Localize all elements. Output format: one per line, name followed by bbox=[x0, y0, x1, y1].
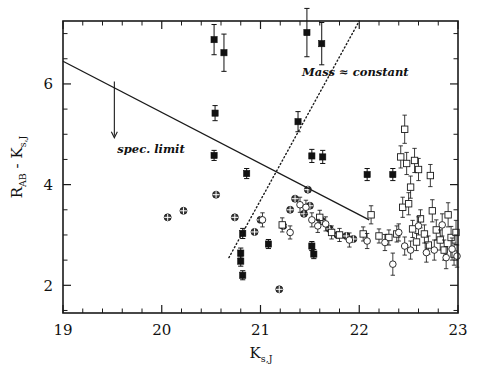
data-point bbox=[304, 8, 310, 56]
marker-open-circle bbox=[431, 247, 438, 254]
marker-open-circle bbox=[423, 249, 430, 256]
marker-filled-square bbox=[265, 241, 271, 247]
data-point bbox=[413, 233, 419, 250]
data-point bbox=[368, 206, 374, 224]
marker-open-square bbox=[405, 201, 411, 207]
data-point bbox=[429, 200, 435, 222]
marker-open-circle bbox=[364, 238, 371, 245]
data-point bbox=[319, 23, 325, 65]
data-point bbox=[240, 271, 246, 280]
marker-open-square bbox=[360, 231, 366, 237]
data-point bbox=[311, 250, 317, 259]
marker-open-square bbox=[415, 166, 421, 172]
data-point bbox=[376, 229, 382, 243]
data-point bbox=[180, 207, 187, 214]
marker-open-square bbox=[376, 233, 382, 239]
marker-open-circle bbox=[259, 217, 266, 224]
marker-open-circle bbox=[443, 254, 450, 261]
data-point bbox=[309, 213, 316, 227]
data-point bbox=[211, 150, 217, 160]
data-point bbox=[401, 115, 407, 143]
marker-open-circle bbox=[346, 237, 353, 244]
marker-open-square bbox=[445, 212, 451, 218]
marker-filled-square bbox=[211, 37, 217, 43]
marker-filled-square bbox=[309, 153, 315, 159]
data-point bbox=[292, 195, 299, 202]
data-point bbox=[409, 220, 415, 237]
marker-open-square bbox=[411, 157, 417, 163]
marker-open-square bbox=[409, 226, 415, 232]
marker-filled-square bbox=[244, 170, 250, 176]
y-axis-title-sj-sub: s,J bbox=[17, 135, 28, 147]
marker-open-circle bbox=[449, 246, 456, 253]
svg-text:Ks,J: Ks,J bbox=[250, 344, 273, 364]
data-point bbox=[213, 191, 220, 198]
marker-open-square bbox=[279, 222, 285, 228]
svg-text:RAB - Ks,J: RAB - Ks,J bbox=[8, 135, 28, 198]
marker-filled-square bbox=[238, 258, 244, 264]
marker-open-circle bbox=[287, 229, 294, 236]
marker-filled-square bbox=[295, 119, 301, 125]
marker-open-square bbox=[401, 126, 407, 132]
data-point bbox=[398, 146, 404, 168]
y-tick-label: 2 bbox=[43, 277, 53, 295]
marker-filled-square bbox=[212, 110, 218, 116]
marker-open-square bbox=[328, 229, 334, 235]
marker-open-square bbox=[407, 184, 413, 190]
y-tick-label: 6 bbox=[43, 75, 53, 93]
marker-filled-square bbox=[319, 41, 325, 47]
marker-filled-square bbox=[311, 251, 317, 257]
data-point bbox=[287, 226, 294, 239]
marker-filled-square bbox=[304, 29, 310, 35]
marker-open-square bbox=[398, 154, 404, 160]
data-point bbox=[336, 228, 342, 241]
data-points-layer bbox=[164, 8, 460, 292]
data-point bbox=[309, 149, 315, 162]
marker-open-circle bbox=[309, 217, 316, 224]
data-point bbox=[164, 214, 171, 221]
marker-open-circle bbox=[439, 222, 446, 229]
x-tick-label: 19 bbox=[53, 321, 72, 339]
x-axis-title-k: K bbox=[250, 344, 262, 362]
x-tick-label: 21 bbox=[251, 321, 270, 339]
marker-open-square bbox=[427, 172, 433, 178]
data-point bbox=[390, 169, 396, 181]
data-point bbox=[251, 228, 258, 235]
data-point bbox=[400, 197, 406, 217]
x-tick-label: 22 bbox=[350, 321, 369, 339]
marker-open-circle bbox=[401, 243, 408, 250]
marker-open-circle bbox=[314, 223, 321, 230]
marker-filled-square bbox=[320, 154, 326, 160]
spec-limit-arrow bbox=[111, 81, 117, 137]
marker-filled-square bbox=[364, 171, 370, 177]
marker-filled-square bbox=[211, 152, 217, 158]
marker-filled-square bbox=[221, 50, 227, 56]
x-axis-title-sub: s,J bbox=[261, 353, 273, 364]
marker-open-circle bbox=[415, 223, 422, 230]
marker-open-square bbox=[403, 160, 409, 166]
annotation-mass-constant: Mass ≈ constant bbox=[301, 65, 409, 79]
series-crossed-circle bbox=[164, 186, 357, 293]
marker-open-square bbox=[413, 239, 419, 245]
data-point bbox=[364, 169, 370, 181]
data-point bbox=[295, 112, 301, 132]
x-axis-title: Ks,J bbox=[250, 344, 273, 364]
marker-open-circle bbox=[390, 261, 397, 268]
marker-filled-square bbox=[238, 250, 244, 256]
constant-mass-line bbox=[229, 21, 359, 258]
figure-container: spec. limitMass ≈ constant 1920212223246… bbox=[0, 0, 486, 374]
marker-open-circle bbox=[303, 204, 310, 211]
marker-open-circle bbox=[407, 247, 414, 254]
data-point bbox=[320, 150, 326, 163]
marker-open-circle bbox=[454, 253, 461, 260]
marker-open-circle bbox=[395, 229, 402, 236]
y-axis-title-ab-sub: AB bbox=[17, 173, 28, 188]
y-axis-title-k: K bbox=[8, 147, 26, 159]
marker-open-square bbox=[400, 204, 406, 210]
annotation-spec-limit: spec. limit bbox=[117, 142, 185, 156]
data-point bbox=[265, 239, 271, 248]
data-point bbox=[403, 152, 409, 174]
data-point bbox=[279, 218, 285, 232]
y-axis-title: RAB - Ks,J bbox=[8, 135, 28, 198]
marker-filled-square bbox=[309, 243, 315, 249]
